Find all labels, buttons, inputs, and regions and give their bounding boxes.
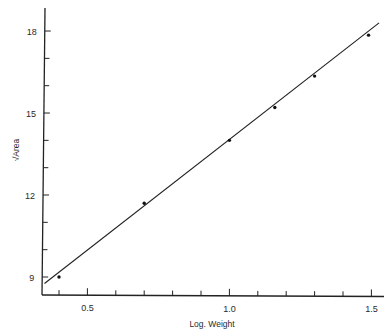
ticks: 0.51.01.59121518 <box>25 27 378 315</box>
y-tick-label: 9 <box>29 273 34 283</box>
y-tick-label: 15 <box>26 109 36 119</box>
x-axis-label: Log. Weight <box>189 319 235 329</box>
x-axis-line <box>42 295 384 297</box>
data-point <box>228 139 231 142</box>
x-tick-label: 1.0 <box>223 304 236 314</box>
y-tick-label: 12 <box>25 191 35 201</box>
data-point <box>313 74 316 77</box>
fit-line <box>44 23 379 284</box>
data-point <box>273 106 276 109</box>
data-points <box>57 33 370 278</box>
data-point <box>57 275 60 278</box>
chart: 0.51.01.59121518 Log. Weight √Area <box>0 0 387 334</box>
data-point <box>367 33 370 36</box>
data-point <box>143 202 146 205</box>
x-tick-label: 1.5 <box>365 304 378 314</box>
y-axis-label: √Area <box>11 138 21 161</box>
y-tick-label: 18 <box>27 27 37 37</box>
y-axis-line <box>42 8 45 295</box>
regression-line <box>44 23 379 284</box>
x-tick-label: 0.5 <box>81 303 94 313</box>
